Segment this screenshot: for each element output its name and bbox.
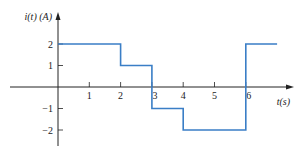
y-tick-label: −1 <box>42 103 53 114</box>
x-tick-label: 6 <box>246 90 251 101</box>
x-tick-label: 3 <box>152 90 157 101</box>
x-axis-label: t(s) <box>277 96 291 108</box>
x-tick-label: 1 <box>87 90 92 101</box>
x-axis-arrow-icon <box>286 85 294 90</box>
y-tick-label: −2 <box>42 125 53 136</box>
x-tick-label: 4 <box>181 90 186 101</box>
y-tick-label: 1 <box>48 60 53 71</box>
x-tick-label: 5 <box>212 90 217 101</box>
y-tick-label: 2 <box>48 39 53 50</box>
step-function-chart: i(t) (A) t(s) 123456 21−1−2 <box>0 0 295 150</box>
y-axis-arrow-icon <box>56 12 61 20</box>
x-tick-label: 2 <box>118 90 123 101</box>
y-axis-label: i(t) (A) <box>25 11 53 23</box>
x-tick-labels: 123456 <box>87 90 252 101</box>
